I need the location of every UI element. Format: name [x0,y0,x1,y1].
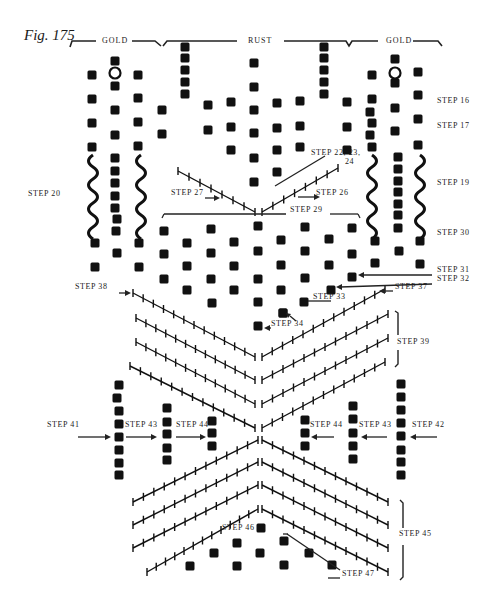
bead-square [301,274,310,283]
bead-square [320,54,329,63]
bead-square [181,78,190,87]
bead-square [280,537,289,546]
step-label-step43R: STEP 43 [359,420,392,430]
bead-square [320,66,329,75]
step-label-step30: STEP 30 [437,228,470,238]
bead-square [163,404,172,413]
bead-square [207,249,216,258]
step-label-step46: STEP 46 [222,523,255,533]
bead-square [134,71,143,80]
bead-square [366,108,375,117]
bead-square [279,309,288,318]
bead-square [88,143,97,152]
bead-square [135,263,144,272]
step-label-step32: STEP 32 [437,274,470,284]
bead-square [320,78,329,87]
bead-square [250,59,259,68]
bead-square [397,471,406,480]
bead-square [163,456,172,465]
bead-square [273,99,282,108]
bead-square [163,430,172,439]
bead-square [277,236,286,245]
bead-square [111,131,120,140]
step-label-step22b: 24 [345,157,354,167]
bead-square [115,407,124,416]
bead-square [257,524,266,533]
bead-square [113,249,122,258]
bead-square [230,262,239,271]
step-label-step20: STEP 20 [28,189,61,199]
bead-square [397,393,406,402]
bead-square [394,224,403,233]
step-label-step33: STEP 33 [313,292,346,302]
bead-square [325,261,334,270]
bead-square [366,131,375,140]
bead-square [204,126,213,135]
bead-square [277,261,286,270]
bead-square [115,471,124,480]
bead-square [301,429,310,438]
step-label-step27: STEP 27 [171,188,204,198]
bead-square [394,153,403,162]
step-label-step47: STEP 47 [342,569,375,579]
twisted-cord-icon [137,155,146,239]
bead-square [88,71,97,80]
pattern-diagram [0,0,494,608]
bead-square [395,247,404,256]
bead-square [394,165,403,174]
bead-square [163,418,172,427]
bead-square [391,127,400,136]
bead-square [207,275,216,284]
bead-square [348,273,357,282]
bead-square [111,57,120,66]
bead-square [115,420,124,429]
bead-square [111,154,120,163]
bead-square [181,54,190,63]
step-label-step41: STEP 41 [47,420,80,430]
bead-square [368,71,377,80]
step-label-step43L: STEP 43 [125,420,158,430]
bead-square [394,211,403,220]
bead-square [112,227,121,236]
bead-square [371,259,380,268]
bead-square [111,179,120,188]
bead-square [207,225,216,234]
bead-square [163,444,172,453]
bead-square [134,94,143,103]
bead-square [227,146,236,155]
step-label-step38: STEP 38 [75,282,108,292]
bead-square [273,168,282,177]
bead-square [250,154,259,163]
bead-square [115,433,124,442]
bead-square [254,322,263,331]
bead-square [250,106,259,115]
bead-square [343,98,352,107]
bead-square [227,98,236,107]
bead-square [135,239,144,248]
open-ring-icon [110,68,401,79]
bead-square [256,549,265,558]
bead-square [250,178,259,187]
bead-square [296,122,305,131]
bead-square [368,143,377,152]
bead-squares [88,43,425,571]
bead-square [277,286,286,295]
bead-square [349,442,358,451]
bead-square [301,247,310,256]
bead-square [227,123,236,132]
bead-square [320,43,329,52]
bead-square [397,419,406,428]
bead-square [233,562,242,571]
step-label-step34: STEP 34 [271,319,304,329]
bead-square [183,286,192,295]
twisted-cord-icon [368,155,377,239]
bead-square [394,200,403,209]
bead-square [208,417,217,426]
bead-square [160,275,169,284]
bead-square [210,549,219,558]
bead-square [115,459,124,468]
arrowheads [105,194,416,440]
bead-square [273,124,282,133]
bead-square [368,119,377,128]
bead-square [254,247,263,256]
